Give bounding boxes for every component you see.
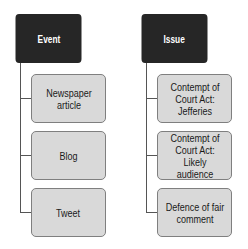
issue-header: Issue <box>142 14 208 63</box>
issue-defence-fair-comment: Defence of fair comment <box>157 188 232 237</box>
event-connector-2 <box>20 155 31 156</box>
event-header: Event <box>16 14 82 63</box>
event-newspaper-article: Newspaper article <box>31 74 106 123</box>
issue-connector-vertical <box>146 63 147 213</box>
event-connector-1 <box>20 98 31 99</box>
event-connector-vertical <box>20 63 21 213</box>
issue-contempt-jefferies: Contempt of Court Act: Jefferies <box>157 74 232 123</box>
event-blog: Blog <box>31 131 106 180</box>
issue-contempt-likely-audience: Contempt of Court Act: Likely audience <box>157 131 232 180</box>
issue-connector-3 <box>146 212 157 213</box>
event-connector-3 <box>20 212 31 213</box>
event-tweet: Tweet <box>31 188 106 237</box>
issue-connector-1 <box>146 98 157 99</box>
issue-connector-2 <box>146 155 157 156</box>
